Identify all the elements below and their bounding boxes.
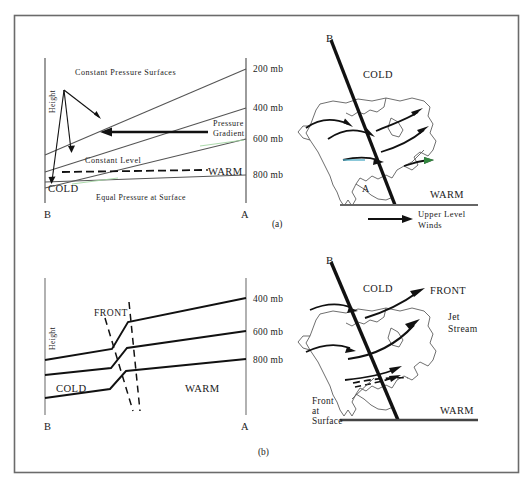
panel-b-pressure-label-400mb: 400 mb: [253, 294, 283, 304]
panel-a-map-label-b: B: [326, 32, 333, 44]
panel-b-map-label-warm: WARM: [440, 405, 474, 416]
panel-a-map-label-warm: WARM: [430, 189, 464, 200]
figure-root: Height Constant Pressure Surfaces Pressu…: [0, 0, 532, 488]
panel-b-caption: (b): [258, 447, 269, 458]
panel-b-pressure-label-800mb: 800 mb: [253, 355, 283, 365]
panel-b-label-cold: COLD: [56, 383, 86, 394]
panel-b-map-label-front: FRONT: [430, 285, 466, 296]
panel-a-annotation-constant-level: Constant Level: [85, 156, 141, 165]
panel-a-annotation-constant-pressure-surfaces: Constant Pressure Surfaces: [75, 68, 176, 77]
panel-a-map-legend-label-line2: Winds: [418, 220, 442, 230]
panel-b-map-label-jet-line1: Jet: [448, 311, 460, 322]
meteorology-figure: Height Constant Pressure Surfaces Pressu…: [0, 0, 532, 488]
panel-b-label-front: FRONT: [94, 307, 128, 318]
panel-a-surface-text: Equal Pressure at Surface: [96, 193, 186, 202]
panel-a-y-axis-label: Height: [48, 89, 57, 113]
panel-b-map-label-front-surface-line1: Front: [312, 396, 334, 406]
figure-border: [15, 16, 519, 473]
panel-b-endpoint-a: A: [241, 421, 249, 432]
panel-b-label-warm: WARM: [185, 383, 220, 394]
panel-a-endpoint-b: B: [44, 209, 51, 220]
panel-b-pressure-label-600mb: 600 mb: [253, 327, 283, 337]
panel-a-label-cold: COLD: [48, 183, 78, 194]
panel-b-map-label-cold: COLD: [363, 283, 393, 294]
panel-b-map-label-b: B: [326, 254, 333, 266]
panel-b-map-label-jet-line2: Stream: [448, 323, 478, 334]
panel-a-annotation-pressure-gradient-line1: Pressure: [213, 119, 244, 128]
panel-a-map-label-a: A: [362, 183, 370, 194]
panel-a-annotation-pressure-gradient-line2: Gradient: [213, 129, 245, 138]
panel-b-map-label-front-surface-line3: Surface: [312, 416, 343, 426]
panel-a-pressure-label-800mb: 800 mb: [253, 170, 283, 180]
panel-b-map-label-front-surface-line2: at: [312, 406, 319, 416]
panel-a-pressure-label-600mb: 600 mb: [253, 134, 283, 144]
panel-a-caption: (a): [272, 219, 282, 230]
panel-a-pressure-label-400mb: 400 mb: [253, 103, 283, 113]
panel-a-endpoint-a: A: [241, 209, 249, 220]
panel-b-y-axis-label: Height: [48, 326, 57, 350]
panel-a-map-legend-label-line1: Upper Level: [418, 209, 466, 219]
panel-a-pressure-label-200mb: 200 mb: [253, 64, 283, 74]
panel-a-map-label-cold: COLD: [363, 69, 393, 80]
panel-a-label-warm: WARM: [208, 166, 243, 177]
panel-b-endpoint-b: B: [44, 421, 51, 432]
